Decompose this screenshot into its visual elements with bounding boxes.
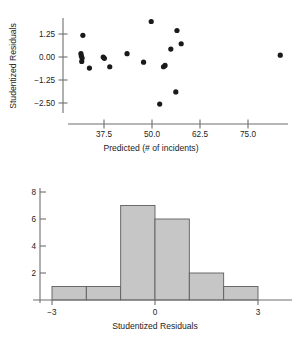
scatter-point xyxy=(87,65,92,70)
scatter-point xyxy=(168,46,173,51)
scatter-points xyxy=(78,19,283,107)
scatter-point xyxy=(80,33,85,38)
y-tick-label: −1.25 xyxy=(34,76,55,85)
scatter-point xyxy=(107,64,112,69)
x-tick-label: 75.0 xyxy=(240,130,256,139)
y-tick-label: 1.25 xyxy=(39,30,55,39)
histogram-bar xyxy=(52,287,86,301)
x-axis-title: Studentized Residuals xyxy=(112,321,198,331)
hist-bars xyxy=(52,206,258,301)
histogram-bar xyxy=(155,219,189,300)
hist-axes: 2468 xyxy=(31,188,46,303)
y-tick-label: 4 xyxy=(31,242,36,251)
x-tick-label: 37.5 xyxy=(96,130,112,139)
scatter-point xyxy=(102,56,107,61)
scatter-point xyxy=(79,59,84,64)
residual-histogram-plot: 2468−303Studentized Residuals xyxy=(0,170,302,341)
y-tick-label: 2 xyxy=(31,269,36,278)
scatter-point xyxy=(278,53,283,58)
x-tick-label: 62.5 xyxy=(192,130,208,139)
histogram-bar xyxy=(86,287,120,301)
scatter-point xyxy=(173,89,178,94)
scatter-point xyxy=(141,60,146,65)
scatter-point xyxy=(174,28,179,33)
scatter-point xyxy=(162,63,167,68)
residual-histogram-panel: 2468−303Studentized Residuals xyxy=(0,170,302,341)
residual-scatter-plot: 1.250.00−1.25−2.5037.550.062.575.0Predic… xyxy=(0,0,302,170)
x-axis-title: Predicted (# of incidents) xyxy=(103,143,198,153)
scatter-axes: 1.250.00−1.25−2.5037.550.062.575.0Predic… xyxy=(8,18,288,153)
histogram-bar xyxy=(121,206,155,301)
x-tick-label: 0 xyxy=(153,308,158,317)
histogram-bar xyxy=(224,287,258,301)
x-tick-label: −3 xyxy=(47,308,57,317)
y-tick-label: 6 xyxy=(31,215,36,224)
scatter-point xyxy=(149,19,154,24)
residual-scatter-panel: 1.250.00−1.25−2.5037.550.062.575.0Predic… xyxy=(0,0,302,170)
y-tick-label: −2.50 xyxy=(34,99,55,108)
hist-x-axis: −303Studentized Residuals xyxy=(33,300,292,331)
x-tick-label: 50.0 xyxy=(144,130,160,139)
scatter-point xyxy=(179,41,184,46)
y-tick-label: 0.00 xyxy=(39,53,55,62)
y-axis-title: Studentized Residuals xyxy=(8,23,18,109)
histogram-bar xyxy=(189,273,223,300)
y-tick-label: 8 xyxy=(31,188,36,197)
scatter-point xyxy=(124,51,129,56)
x-tick-label: 3 xyxy=(256,308,261,317)
scatter-point xyxy=(157,102,162,107)
